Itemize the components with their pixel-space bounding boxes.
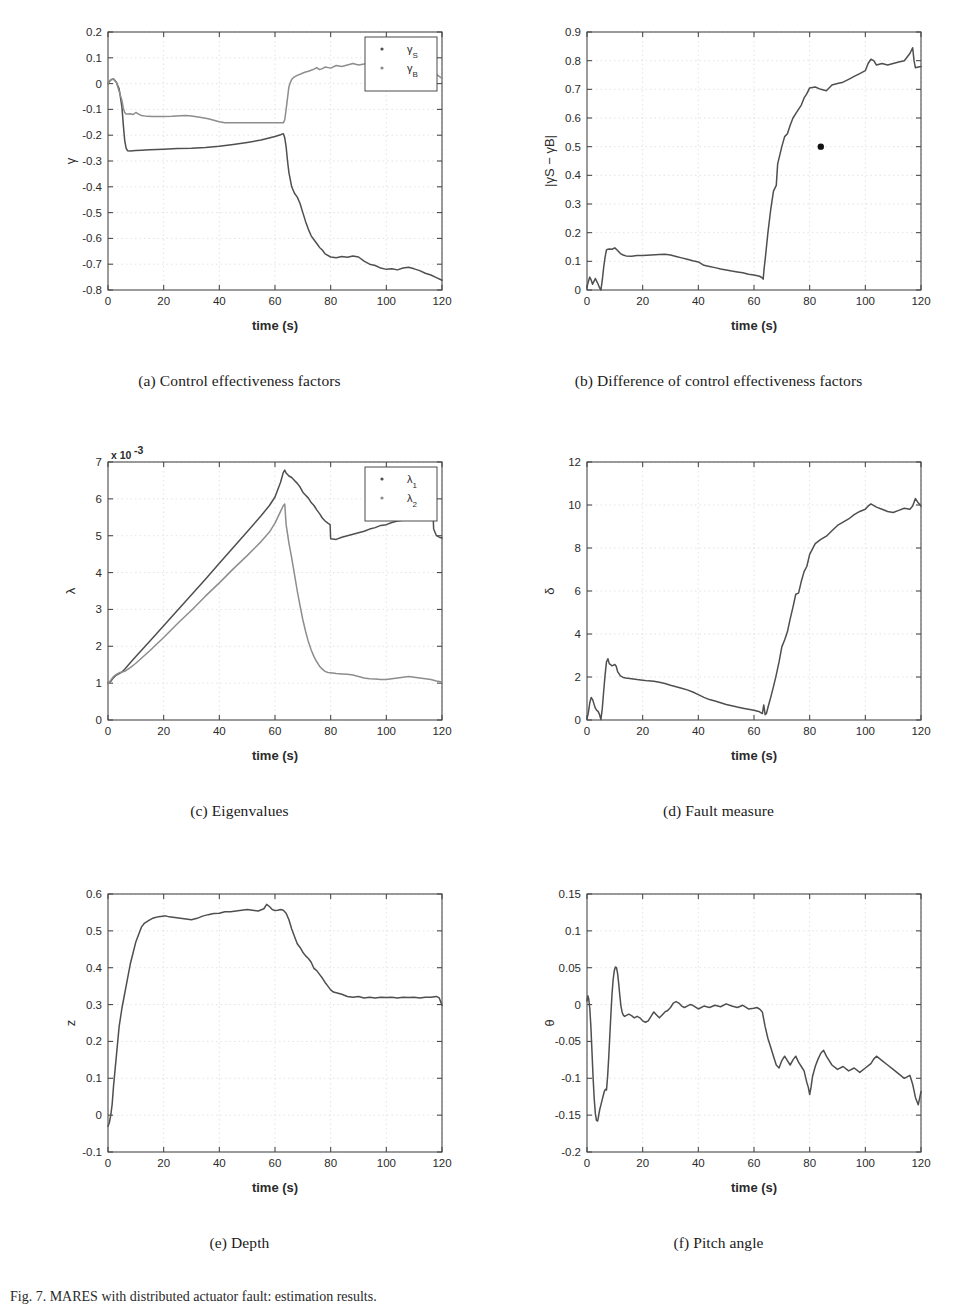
svg-text:6: 6 xyxy=(575,585,581,597)
svg-text:60: 60 xyxy=(748,725,761,737)
svg-text:60: 60 xyxy=(748,1157,761,1169)
svg-text:8: 8 xyxy=(575,542,581,554)
panel-c-caption: (c) Eigenvalues xyxy=(0,802,479,820)
svg-text:120: 120 xyxy=(911,725,930,737)
svg-text:0: 0 xyxy=(584,725,590,737)
axes-c: 02040608010012001234567x 10-3time (s)λλ1… xyxy=(62,448,452,766)
svg-text:20: 20 xyxy=(636,295,649,307)
svg-text:0.3: 0.3 xyxy=(565,198,581,210)
plot-f: 020406080100120-0.2-0.15-0.1-0.0500.050.… xyxy=(541,880,931,1198)
svg-text:5: 5 xyxy=(96,530,102,542)
svg-text:λ: λ xyxy=(63,587,78,594)
svg-text:0.1: 0.1 xyxy=(86,1072,102,1084)
svg-text:0.2: 0.2 xyxy=(86,26,102,38)
svg-text:100: 100 xyxy=(856,295,875,307)
svg-text:12: 12 xyxy=(568,456,581,468)
figure-row-1: 020406080100120-0.8-0.7-0.6-0.5-0.4-0.3-… xyxy=(0,0,958,425)
svg-text:0.2: 0.2 xyxy=(565,227,581,239)
axes-f: 020406080100120-0.2-0.15-0.1-0.0500.050.… xyxy=(541,880,931,1198)
svg-text:-0.15: -0.15 xyxy=(555,1109,581,1121)
svg-text:-0.2: -0.2 xyxy=(82,129,102,141)
svg-text:0.1: 0.1 xyxy=(565,925,581,937)
svg-text:-0.8: -0.8 xyxy=(82,284,102,296)
svg-text:40: 40 xyxy=(692,725,705,737)
svg-text:20: 20 xyxy=(636,725,649,737)
svg-text:40: 40 xyxy=(692,1157,705,1169)
svg-text:7: 7 xyxy=(96,456,102,468)
svg-text:4: 4 xyxy=(96,567,103,579)
svg-text:4: 4 xyxy=(575,628,582,640)
figure-row-3: 020406080100120-0.100.10.20.30.40.50.6ti… xyxy=(0,862,958,1287)
svg-text:120: 120 xyxy=(911,1157,930,1169)
plot-b: 02040608010012000.10.20.30.40.50.60.70.8… xyxy=(541,18,931,336)
svg-text:80: 80 xyxy=(324,725,337,737)
svg-text:-0.1: -0.1 xyxy=(561,1072,581,1084)
svg-text:20: 20 xyxy=(636,1157,649,1169)
svg-text:0.8: 0.8 xyxy=(565,55,581,67)
svg-text:time (s): time (s) xyxy=(731,318,777,333)
svg-text:0: 0 xyxy=(575,714,581,726)
plot-d: 020406080100120024681012time (s)δ xyxy=(541,448,931,766)
svg-text:time (s): time (s) xyxy=(731,748,777,763)
svg-text:0.1: 0.1 xyxy=(86,52,102,64)
scan-artifact-dot xyxy=(818,143,824,149)
svg-text:100: 100 xyxy=(377,295,396,307)
svg-text:time (s): time (s) xyxy=(252,748,298,763)
panel-a-caption: (a) Control effectiveness factors xyxy=(0,372,479,390)
panel-f-caption: (f) Pitch angle xyxy=(479,1234,958,1252)
svg-text:60: 60 xyxy=(748,295,761,307)
svg-text:120: 120 xyxy=(911,295,930,307)
figure-row-2: 02040608010012001234567x 10-3time (s)λλ1… xyxy=(0,430,958,855)
svg-text:0.4: 0.4 xyxy=(86,962,103,974)
plot-e: 020406080100120-0.100.10.20.30.40.50.6ti… xyxy=(62,880,452,1198)
svg-text:80: 80 xyxy=(324,1157,337,1169)
svg-text:z: z xyxy=(63,1020,78,1027)
svg-text:60: 60 xyxy=(269,295,282,307)
svg-text:0.3: 0.3 xyxy=(86,999,102,1011)
svg-text:2: 2 xyxy=(96,640,102,652)
svg-text:40: 40 xyxy=(213,295,226,307)
svg-text:0: 0 xyxy=(584,295,590,307)
svg-text:0: 0 xyxy=(96,78,102,90)
svg-text:40: 40 xyxy=(213,725,226,737)
svg-text:20: 20 xyxy=(157,1157,170,1169)
svg-text:|γS − γB|: |γS − γB| xyxy=(542,135,557,187)
svg-text:0.4: 0.4 xyxy=(565,169,582,181)
svg-text:120: 120 xyxy=(432,295,451,307)
svg-text:40: 40 xyxy=(213,1157,226,1169)
svg-text:100: 100 xyxy=(377,725,396,737)
svg-text:0: 0 xyxy=(105,295,111,307)
svg-text:-0.5: -0.5 xyxy=(82,207,102,219)
plot-c: 02040608010012001234567x 10-3time (s)λλ1… xyxy=(62,448,452,766)
plot-a: 020406080100120-0.8-0.7-0.6-0.5-0.4-0.3-… xyxy=(62,18,452,336)
svg-text:-0.6: -0.6 xyxy=(82,232,102,244)
svg-text:120: 120 xyxy=(432,1157,451,1169)
svg-text:-0.4: -0.4 xyxy=(82,181,102,193)
svg-text:6: 6 xyxy=(96,493,102,505)
svg-text:100: 100 xyxy=(377,1157,396,1169)
svg-text:0.15: 0.15 xyxy=(559,888,581,900)
svg-text:-0.3: -0.3 xyxy=(82,155,102,167)
svg-text:0: 0 xyxy=(105,725,111,737)
svg-text:-0.2: -0.2 xyxy=(561,1146,581,1158)
svg-text:0.5: 0.5 xyxy=(86,925,102,937)
svg-text:3: 3 xyxy=(96,603,102,615)
svg-text:20: 20 xyxy=(157,725,170,737)
svg-text:δ: δ xyxy=(542,587,557,594)
svg-text:100: 100 xyxy=(856,725,875,737)
svg-text:0: 0 xyxy=(105,1157,111,1169)
svg-text:80: 80 xyxy=(803,295,816,307)
series-line xyxy=(587,499,921,720)
axes-e: 020406080100120-0.100.10.20.30.40.50.6ti… xyxy=(62,880,452,1198)
svg-text:1: 1 xyxy=(96,677,102,689)
svg-text:120: 120 xyxy=(432,725,451,737)
svg-text:-0.1: -0.1 xyxy=(82,1146,102,1158)
svg-text:0: 0 xyxy=(96,1109,102,1121)
axes-a: 020406080100120-0.8-0.7-0.6-0.5-0.4-0.3-… xyxy=(62,18,452,336)
svg-text:2: 2 xyxy=(575,671,581,683)
svg-text:60: 60 xyxy=(269,725,282,737)
svg-text:x 10: x 10 xyxy=(111,449,132,461)
svg-text:20: 20 xyxy=(157,295,170,307)
svg-text:0.9: 0.9 xyxy=(565,26,581,38)
svg-text:-0.1: -0.1 xyxy=(82,103,102,115)
